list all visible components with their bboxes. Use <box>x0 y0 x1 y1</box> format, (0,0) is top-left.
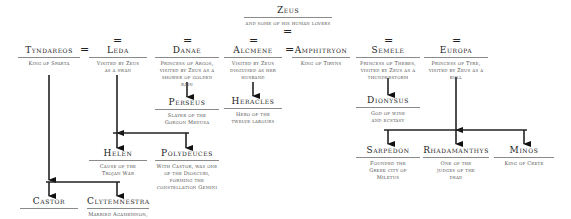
name-underline <box>155 57 219 58</box>
node-perseus: Perseus Slayer of the Gorgon Medusa <box>155 97 219 126</box>
node-alcmene: Alcmene Visited by Zeus disguised as her… <box>224 45 282 81</box>
node-semele: Semele Princess of Thebes, visited by Ze… <box>356 45 420 81</box>
person-name: Helen <box>89 148 147 158</box>
node-rhadamanthys: Rhadamanthys One of the judges of the de… <box>423 145 489 181</box>
person-name: Europa <box>424 45 488 55</box>
node-helen: Helen Cause of the Trojan War <box>89 148 147 177</box>
name-underline <box>89 57 147 58</box>
person-name: Minos <box>494 145 554 155</box>
person-name: Polydeuces <box>155 148 219 158</box>
person-name: Semele <box>356 45 420 55</box>
person-description: Princess of Thebes, visited by Zeus as a… <box>356 60 420 81</box>
person-description: Founded the Greek city of Miletus <box>356 160 420 181</box>
person-description: One of the judges of the dead <box>423 160 489 181</box>
name-underline <box>224 57 282 58</box>
name-underline <box>155 160 219 161</box>
person-name: Leda <box>89 45 147 55</box>
person-name: Heracles <box>224 96 282 106</box>
person-name: Perseus <box>155 97 219 107</box>
node-danae: Danae Princess of Argos, visited by Zeus… <box>155 45 219 88</box>
person-description: Princess of Argos, visited by Zeus as a … <box>155 60 219 88</box>
person-description: With Castor, was one of the Dioscuri, fo… <box>155 163 219 191</box>
person-name: Dionysus <box>356 95 420 105</box>
person-description: Princess of Tyre, visited by Zeus as a b… <box>424 60 488 81</box>
node-zeus: Zeus and some of his human lovers <box>244 5 332 27</box>
name-underline <box>244 17 332 18</box>
person-description: Visited by Zeus disguised as her husband <box>224 60 282 81</box>
node-tyndareos: Tyndareos King of Sparta <box>18 45 80 67</box>
node-heracles: Heracles Hero of the twelve labours <box>224 96 282 125</box>
name-underline <box>292 57 350 58</box>
person-name: Clytemnestra <box>87 196 149 206</box>
name-underline <box>423 157 489 158</box>
name-underline <box>87 208 149 209</box>
person-name: Amphitryon <box>292 45 350 55</box>
person-description: Married Agamemnon, King of Mycenae <box>87 211 149 219</box>
person-description: King of Crete <box>494 160 554 167</box>
marriage-symbol: = <box>283 27 292 37</box>
node-dionysus: Dionysus God of wine and ecstasy <box>356 95 420 124</box>
person-name: Rhadamanthys <box>423 145 489 155</box>
node-clytemnestra: Clytemnestra Married Agamemnon, King of … <box>87 196 149 219</box>
name-underline <box>20 208 78 209</box>
node-minos: Minos King of Crete <box>494 145 554 167</box>
person-name: Alcmene <box>224 45 282 55</box>
person-name: Zeus <box>244 5 332 15</box>
person-name: Danae <box>155 45 219 55</box>
person-description: Cause of the Trojan War <box>89 163 147 177</box>
name-underline <box>424 57 488 58</box>
person-name: Castor <box>20 196 78 206</box>
name-underline <box>356 157 420 158</box>
name-underline <box>224 108 282 109</box>
person-description: Hero of the twelve labours <box>224 111 282 125</box>
name-underline <box>356 107 420 108</box>
person-name: Sarpedon <box>356 145 420 155</box>
node-leda: Leda Visited by Zeus as a swan <box>89 45 147 74</box>
node-castor: Castor <box>20 196 78 211</box>
name-underline <box>155 109 219 110</box>
person-description: King of Tiryns <box>292 60 350 67</box>
name-underline <box>89 160 147 161</box>
node-polydeuces: Polydeuces With Castor, was one of the D… <box>155 148 219 191</box>
marriage-symbol: = <box>80 45 89 55</box>
person-description: Slayer of the Gorgon Medusa <box>155 112 219 126</box>
name-underline <box>18 57 80 58</box>
node-europa: Europa Princess of Tyre, visited by Zeus… <box>424 45 488 81</box>
name-underline <box>494 157 554 158</box>
person-description: God of wine and ecstasy <box>356 110 420 124</box>
person-description: King of Sparta <box>18 60 80 67</box>
person-description: Visited by Zeus as a swan <box>89 60 147 74</box>
person-name: Tyndareos <box>18 45 80 55</box>
node-amphitryon: Amphitryon King of Tiryns <box>292 45 350 67</box>
node-sarpedon: Sarpedon Founded the Greek city of Milet… <box>356 145 420 181</box>
name-underline <box>356 57 420 58</box>
